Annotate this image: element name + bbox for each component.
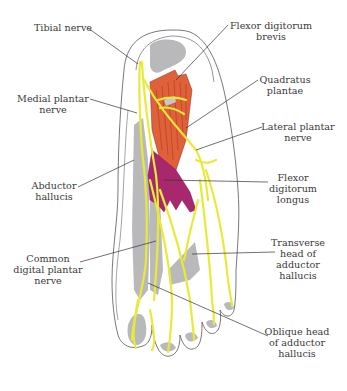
label-medial-plantar-nerve: Medial plantar nerve xyxy=(14,93,92,115)
label-transverse-head-adductor-hallucis: Transverse head of adductor hallucis xyxy=(270,237,326,281)
label-abductor-hallucis: Abductor hallucis xyxy=(26,180,82,202)
label-quadratus-plantae: Quadratus plantae xyxy=(258,74,312,96)
label-flexor-digitorum-brevis: Flexor digitorum brevis xyxy=(228,20,314,42)
label-flexor-digitorum-longus: Flexor digitorum longus xyxy=(268,172,318,205)
label-tibial-nerve: Tibial nerve xyxy=(28,22,98,33)
label-lateral-plantar-nerve: Lateral plantar nerve xyxy=(258,121,338,143)
label-common-digital-plantar-nerve: Common digital plantar nerve xyxy=(10,253,86,286)
foot-anatomy-diagram: Tibial nerve Medial plantar nerve Abduct… xyxy=(0,0,347,391)
label-oblique-head-adductor-hallucis: Oblique head of adductor hallucis xyxy=(262,326,332,359)
